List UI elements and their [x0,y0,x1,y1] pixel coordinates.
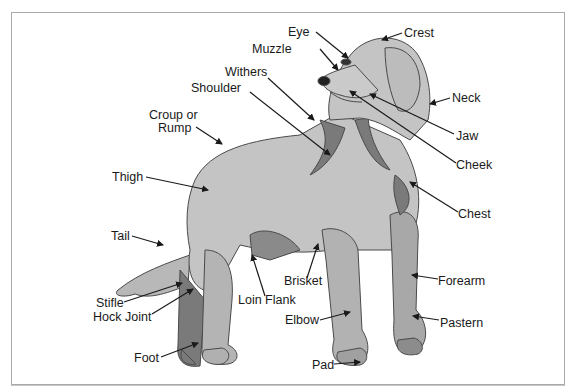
label-pad: Pad [312,358,334,372]
label-pastern: Pastern [440,316,483,330]
label-shoulder: Shoulder [191,81,241,95]
label-eye: Eye [288,25,310,39]
label-neck: Neck [452,91,480,105]
label-forearm: Forearm [438,274,485,288]
label-stifle: Stifle [96,296,124,310]
label-withers: Withers [225,65,267,79]
label-hock-joint: Hock Joint [93,310,151,324]
label-chest: Chest [458,207,491,221]
label-cheek: Cheek [456,158,492,172]
dog-illustration [0,0,580,392]
label-elbow: Elbow [285,313,319,327]
label-rump: Rump [158,121,191,135]
label-thigh: Thigh [112,170,143,184]
label-jaw: Jaw [456,129,478,143]
label-muzzle: Muzzle [252,42,292,56]
label-foot: Foot [134,351,159,365]
label-croup: Croup or [149,108,198,122]
label-brisket: Brisket [284,274,322,288]
label-crest: Crest [404,26,434,40]
label-loin-flank: Loin Flank [238,293,296,307]
dog-body [116,38,429,366]
label-tail: Tail [111,229,130,243]
